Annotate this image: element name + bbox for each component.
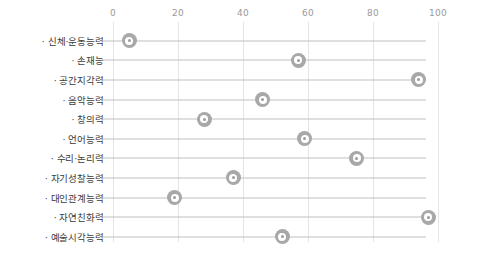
- category-label: · 음악능력: [63, 93, 104, 107]
- marker-core-dot: [297, 59, 300, 62]
- chart-container: 020406080100 · 신체·운동능력· 손재능· 공간지각력· 음악능력…: [0, 0, 490, 267]
- chart-row[interactable]: · 대인관계능력: [113, 188, 438, 208]
- row-baseline: [101, 236, 426, 237]
- chart-row[interactable]: · 자연친화력: [113, 207, 438, 227]
- marker-core-dot: [128, 39, 131, 42]
- row-baseline: [101, 197, 426, 198]
- marker-core-dot: [427, 216, 430, 219]
- data-point-marker[interactable]: [197, 112, 212, 127]
- row-baseline: [101, 119, 426, 120]
- data-point-marker[interactable]: [122, 33, 137, 48]
- row-baseline: [101, 60, 426, 61]
- x-tick-label: 20: [172, 8, 184, 18]
- data-point-marker[interactable]: [275, 229, 290, 244]
- row-baseline: [101, 158, 426, 159]
- marker-core-dot: [355, 157, 358, 160]
- row-baseline: [101, 217, 426, 218]
- marker-inner-ring: [278, 233, 286, 241]
- data-point-marker[interactable]: [167, 190, 182, 205]
- row-baseline: [101, 138, 426, 139]
- x-tick-label: 0: [110, 8, 116, 18]
- category-label: · 신체·운동능력: [42, 34, 104, 48]
- data-point-marker[interactable]: [411, 72, 426, 87]
- row-baseline: [101, 40, 426, 41]
- x-tick-label: 60: [302, 8, 314, 18]
- marker-inner-ring: [200, 115, 208, 123]
- x-tick-label: 80: [367, 8, 379, 18]
- plot-area: 020406080100 · 신체·운동능력· 손재능· 공간지각력· 음악능력…: [113, 22, 438, 252]
- chart-row[interactable]: · 언어능력: [113, 129, 438, 149]
- gridline: [438, 22, 439, 242]
- category-label: · 손재능: [71, 53, 104, 67]
- marker-inner-ring: [294, 56, 302, 64]
- data-point-marker[interactable]: [297, 131, 312, 146]
- marker-inner-ring: [125, 37, 133, 45]
- chart-row[interactable]: · 손재능: [113, 51, 438, 71]
- marker-core-dot: [232, 176, 235, 179]
- category-label: · 예술시각능력: [45, 230, 104, 244]
- data-point-marker[interactable]: [226, 170, 241, 185]
- chart-row[interactable]: · 신체·운동능력: [113, 31, 438, 51]
- marker-inner-ring: [259, 96, 267, 104]
- marker-inner-ring: [229, 174, 237, 182]
- chart-row[interactable]: · 자기성찰능력: [113, 168, 438, 188]
- marker-inner-ring: [353, 154, 361, 162]
- data-point-marker[interactable]: [255, 92, 270, 107]
- chart-row[interactable]: · 예술시각능력: [113, 227, 438, 247]
- marker-inner-ring: [424, 213, 432, 221]
- data-point-marker[interactable]: [349, 151, 364, 166]
- marker-core-dot: [203, 118, 206, 121]
- category-label: · 대인관계능력: [45, 191, 104, 205]
- marker-core-dot: [173, 196, 176, 199]
- data-point-marker[interactable]: [291, 53, 306, 68]
- category-label: · 자연친화력: [54, 210, 104, 224]
- category-label: · 공간지각력: [54, 73, 104, 87]
- marker-inner-ring: [171, 194, 179, 202]
- chart-row[interactable]: · 창의력: [113, 109, 438, 129]
- x-tick-label: 100: [429, 8, 447, 18]
- chart-row[interactable]: · 음악능력: [113, 90, 438, 110]
- chart-row[interactable]: · 공간지각력: [113, 70, 438, 90]
- x-tick-label: 40: [237, 8, 249, 18]
- chart-row[interactable]: · 수리·논리력: [113, 149, 438, 169]
- category-label: · 수리·논리력: [51, 151, 104, 165]
- row-baseline: [101, 177, 426, 178]
- row-baseline: [101, 79, 426, 80]
- marker-inner-ring: [301, 135, 309, 143]
- marker-core-dot: [281, 235, 284, 238]
- category-label: · 창의력: [71, 112, 104, 126]
- marker-inner-ring: [415, 76, 423, 84]
- marker-core-dot: [417, 78, 420, 81]
- category-label: · 언어능력: [63, 132, 104, 146]
- marker-core-dot: [303, 137, 306, 140]
- category-label: · 자기성찰능력: [45, 171, 104, 185]
- data-point-marker[interactable]: [421, 210, 436, 225]
- marker-core-dot: [261, 98, 264, 101]
